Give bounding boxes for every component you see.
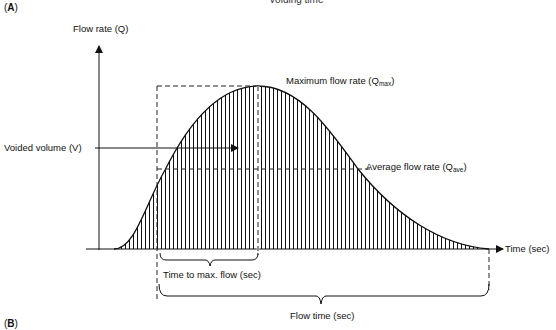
qmax-label-close: ) [391, 75, 394, 86]
qave-subscript: ave [453, 166, 463, 173]
uroflow-diagram [0, 0, 556, 330]
qave-label: Average flow rate (Qave) [366, 162, 467, 174]
voided-volume-label: Voided volume (V) [4, 143, 82, 153]
qmax-label-text: Maximum flow rate (Q [286, 75, 379, 86]
panel-b-letter: B [7, 318, 14, 329]
flow-time-brace [159, 284, 489, 304]
time-to-max-label: Time to max. flow (sec) [163, 270, 261, 280]
qave-label-text: Average flow rate (Q [366, 161, 453, 172]
time-to-max-brace [160, 253, 258, 266]
qave-label-close: ) [463, 161, 466, 172]
x-axis-label: Time (sec) [505, 244, 550, 254]
panel-label-b: (B) [4, 318, 18, 329]
qmax-label: Maximum flow rate (Qmax) [286, 76, 394, 88]
y-axis-label: Flow rate (Q) [73, 24, 128, 34]
flow-time-label: Flow time (sec) [290, 311, 354, 321]
qmax-subscript: max [379, 80, 391, 87]
